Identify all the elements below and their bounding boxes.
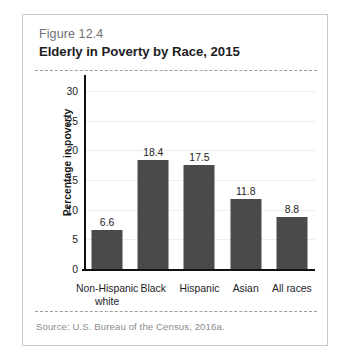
bar-value-label: 8.8 [285, 204, 299, 215]
y-axis-tick-label: 15 [66, 174, 78, 185]
y-axis-tick-label: 10 [66, 204, 78, 215]
source-note: Source: U.S. Bureau of the Census, 2016a… [36, 321, 225, 332]
dashed-divider-bottom [35, 311, 317, 312]
y-axis-tick-label: 5 [72, 234, 78, 245]
bar[interactable] [138, 160, 169, 269]
bar-value-label: 17.5 [189, 152, 209, 163]
bar[interactable] [230, 199, 261, 269]
y-axis-tick-label: 25 [66, 115, 78, 126]
bar-slot: 11.8Asian [223, 89, 269, 269]
figure-card: Figure 12.4 Elderly in Poverty by Race, … [22, 14, 328, 346]
figure-title: Elderly in Poverty by Race, 2015 [39, 44, 240, 59]
dashed-divider-top [35, 70, 317, 71]
bar-slot: 18.4Black [130, 89, 176, 269]
plot-area: 051015202530 6.6Non-Hispanicwhite18.4Bla… [84, 83, 315, 275]
bar[interactable] [184, 165, 215, 269]
bar-slot: 8.8All races [269, 89, 315, 269]
y-axis-tick-label: 20 [66, 145, 78, 156]
y-axis-tick-label: 0 [72, 264, 78, 275]
bar[interactable] [92, 230, 123, 269]
bar-value-label: 18.4 [143, 147, 163, 158]
x-axis-category-label: Non-Hispanicwhite [76, 283, 138, 308]
bar-chart: Percentage in poverty 051015202530 6.6No… [39, 83, 315, 305]
bar-value-label: 6.6 [100, 217, 114, 228]
bar-slot: 6.6Non-Hispanicwhite [84, 89, 130, 269]
x-axis-category-label: All races [272, 283, 312, 296]
bar-value-label: 11.8 [236, 186, 255, 197]
x-axis-category-label: Black [141, 283, 166, 296]
y-axis-tick-label: 30 [66, 85, 78, 96]
x-axis-category-label: Asian [233, 283, 259, 296]
x-axis-category-label: Hispanic [180, 283, 220, 296]
x-axis-line [82, 269, 315, 271]
figure-number: Figure 12.4 [39, 27, 103, 41]
bar[interactable] [276, 217, 307, 269]
bar-slot: 17.5Hispanic [176, 89, 222, 269]
